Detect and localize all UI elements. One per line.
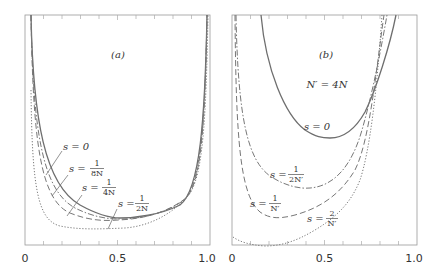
panel-a-xtick-0: 0: [22, 252, 29, 265]
panel-b-xtick-1: 1.0: [405, 252, 423, 265]
panel-b-label: (b): [319, 49, 333, 60]
panel-b: 0 0.5 1.0 (b) N′ = 4N s = 0 s = 1 2N′ s …: [229, 15, 423, 265]
panel-a-curve-s4n: [31, 15, 207, 220]
legend-b-s2np-den: N′: [328, 219, 337, 228]
panel-a-legend: s = 0 s = 1 8N s = 1 4N s = 1 2N: [46, 141, 149, 229]
legend-b-s2n-num: 1: [293, 165, 298, 174]
legend-b-s2n-prefix: s =: [270, 169, 287, 180]
panel-a-label: (a): [111, 49, 125, 60]
panel-b-annotation: N′ = 4N: [306, 79, 349, 90]
legend-a-s0: s = 0: [63, 141, 90, 152]
panel-a-xtick-1: 1.0: [198, 252, 216, 265]
figure: 0 0.5 1.0 (a) s = 0 s = 1 8N s = 1 4N s …: [0, 0, 447, 278]
legend-b-s1n-num: 1: [272, 194, 277, 203]
legend-a-s8n-prefix: s =: [69, 163, 86, 174]
panel-b-xtick-05: 0.5: [316, 252, 334, 265]
panel-b-curve-s0: [261, 15, 396, 138]
panel-a: 0 0.5 1.0 (a) s = 0 s = 1 8N s = 1 4N s …: [22, 15, 216, 265]
legend-a-s4n-num: 1: [106, 178, 111, 187]
legend-a-s8n-num: 1: [94, 159, 99, 168]
panel-a-xtick-05: 0.5: [109, 252, 127, 265]
panel-b-xtick-0: 0: [229, 252, 236, 265]
legend-b-s2n-den: 2N′: [289, 175, 303, 184]
panel-b-curve-s2n: [236, 15, 387, 188]
legend-a-s2n-prefix: s =: [118, 198, 135, 209]
legend-b-s1n-prefix: s =: [250, 198, 267, 209]
panel-a-curve-s0: [31, 15, 207, 218]
legend-a-s2n-num: 1: [139, 194, 144, 203]
legend-a-s2n-den: 2N: [136, 204, 148, 213]
legend-b-s2np-prefix: s =: [307, 213, 324, 224]
legend-b-s1n-den: N′: [271, 204, 280, 213]
panel-b-legend: s = 0 s = 1 2N′ s = 1 N′ s = 2 N′: [250, 121, 338, 228]
panel-a-curve-s2n: [31, 15, 208, 229]
legend-b-s0: s = 0: [304, 121, 331, 132]
legend-b-s2np-num: 2: [329, 209, 334, 218]
legend-a-s4n-prefix: s =: [82, 182, 99, 193]
legend-a-s4n-den: 4N: [103, 188, 115, 197]
legend-a-s8n-den: 8N: [91, 169, 103, 178]
